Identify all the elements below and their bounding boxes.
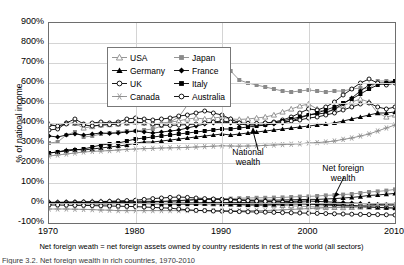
y-tick-label: 700% (6, 57, 44, 66)
legend-item-uk[interactable]: UK (112, 77, 165, 90)
x-tick-label: 1970 (38, 226, 58, 236)
legend-marker-icon (174, 92, 189, 101)
y-tick-label: 300% (6, 137, 44, 146)
legend-label: Australia (192, 92, 225, 102)
legend-item-france[interactable]: France (174, 64, 225, 77)
legend-marker-icon (112, 92, 127, 101)
legend-item-japan[interactable]: Japan (174, 51, 225, 64)
x-tick-label: 1990 (211, 226, 231, 236)
y-tick-label: 500% (6, 97, 44, 106)
plot-area: Nationalwealth Net foreignwealth USAJapa… (48, 22, 396, 224)
y-tick-label: 200% (6, 157, 44, 166)
y-tick-label: 0% (6, 197, 44, 206)
legend-label: Germany (130, 66, 165, 76)
annotation-arrow-down-icon (328, 175, 350, 199)
legend-marker-icon (112, 53, 127, 62)
legend-label: USA (130, 53, 147, 63)
legend-marker-icon (112, 79, 127, 88)
x-tick-label: 2010 (384, 226, 404, 236)
y-tick-label: 100% (6, 177, 44, 186)
legend-marker-icon (174, 53, 189, 62)
figure-subcaption: Figure 3.2. Net foreign wealth in rich c… (2, 256, 401, 264)
chart-caption: Net foreign weath = net foreign assets o… (0, 242, 403, 251)
y-tick-label: 400% (6, 117, 44, 126)
legend-marker-icon (112, 66, 127, 75)
y-tick-label: 600% (6, 77, 44, 86)
x-tick-label: 1980 (124, 226, 144, 236)
y-tick-label: -100% (6, 217, 44, 226)
legend-label: Canada (130, 92, 160, 102)
x-axis-ticks: 19701980199020002010 (48, 226, 396, 240)
legend-item-canada[interactable]: Canada (112, 90, 165, 103)
chart-legend: USAJapanGermanyFranceUKItalyCanadaAustra… (107, 47, 231, 107)
legend-label: France (192, 66, 218, 76)
v-grid-line (309, 23, 310, 223)
legend-item-italy[interactable]: Italy (174, 77, 225, 90)
legend-marker-icon (174, 66, 189, 75)
y-tick-label: 800% (6, 37, 44, 46)
legend-label: Japan (192, 53, 215, 63)
legend-item-germany[interactable]: Germany (112, 64, 165, 77)
y-tick-label: 900% (6, 17, 44, 26)
legend-label: Italy (192, 79, 208, 89)
legend-label: UK (130, 79, 142, 89)
legend-item-australia[interactable]: Australia (174, 90, 225, 103)
legend-marker-icon (174, 79, 189, 88)
x-tick-label: 2000 (297, 226, 317, 236)
annotation-arrow-up-icon (244, 125, 266, 151)
legend-item-usa[interactable]: USA (112, 51, 165, 64)
